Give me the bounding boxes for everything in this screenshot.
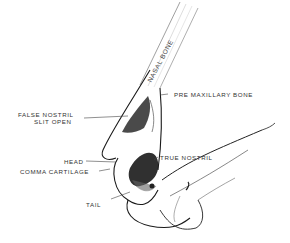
label-true-nostril: True Nostril xyxy=(160,154,213,161)
lip-and-cheek-lines xyxy=(160,123,275,229)
false-nostril-shading xyxy=(122,96,150,133)
label-pre-maxillary-bone: Pre Maxillary Bone xyxy=(174,91,253,98)
label-false-nostril: False Nostril xyxy=(18,111,74,118)
label-slit-open: Slit Open xyxy=(34,118,72,125)
label-comma-cartilage: Comma Cartilage xyxy=(20,168,89,175)
label-head: Head xyxy=(64,158,84,165)
label-tail: Tail xyxy=(86,201,101,208)
